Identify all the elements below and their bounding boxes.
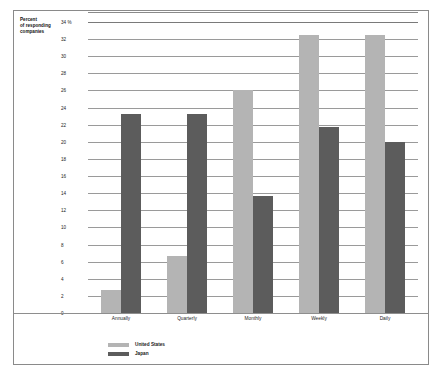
bar-quarterly-japan[interactable] [187, 114, 207, 313]
y-tick-label-14: 14 [61, 191, 83, 196]
gridline-top-cap [88, 12, 418, 13]
plot-area: 34 %32302826242220181614121086420 [88, 22, 418, 313]
y-tick-label-18: 18 [61, 156, 83, 161]
bar-weekly-japan[interactable] [319, 127, 339, 313]
x-tick-label-daily: Daily [352, 316, 418, 328]
legend-label-us: United States [135, 342, 165, 347]
bar-group-weekly [286, 22, 352, 313]
y-tick-label-32: 32 [61, 37, 83, 42]
baseline-extension [14, 313, 428, 314]
bar-monthly-japan[interactable] [253, 196, 273, 313]
bar-group-daily [352, 22, 418, 313]
y-tick-label-34: 34 % [61, 20, 83, 25]
y-tick-label-24: 24 [61, 105, 83, 110]
y-tick-label-12: 12 [61, 208, 83, 213]
x-axis-labels: AnnuallyQuarterlyMonthlyWeeklyDaily [88, 316, 418, 328]
y-tick-label-4: 4 [61, 276, 83, 281]
x-tick-label-monthly: Monthly [220, 316, 286, 328]
bar-daily-united-states[interactable] [365, 35, 385, 313]
bar-group-monthly [220, 22, 286, 313]
axis-title-text-1: Percent [20, 17, 37, 22]
y-tick-label-28: 28 [61, 71, 83, 76]
y-tick-label-26: 26 [61, 88, 83, 93]
x-tick-label-quarterly: Quarterly [154, 316, 220, 328]
bar-monthly-united-states[interactable] [233, 90, 253, 313]
legend-swatch-jp [108, 352, 129, 356]
axis-title-text-3: companies [20, 29, 44, 34]
bar-annually-united-states[interactable] [101, 290, 121, 313]
y-tick-label-20: 20 [61, 139, 83, 144]
y-tick-label-22: 22 [61, 122, 83, 127]
bar-quarterly-united-states[interactable] [167, 256, 187, 313]
y-tick-label-16: 16 [61, 174, 83, 179]
y-tick-label-6: 6 [61, 259, 83, 264]
x-tick-label-annually: Annually [88, 316, 154, 328]
bar-daily-japan[interactable] [385, 142, 405, 313]
y-tick-label-30: 30 [61, 54, 83, 59]
legend-item-jp[interactable]: Japan [108, 349, 165, 358]
bar-groups [88, 22, 418, 313]
chart-legend: United StatesJapan [108, 340, 165, 358]
chart-figure: Percent of responding companies 34 %3230… [0, 0, 442, 375]
y-tick-label-10: 10 [61, 225, 83, 230]
bar-group-annually [88, 22, 154, 313]
legend-swatch-us [108, 343, 129, 347]
bar-weekly-united-states[interactable] [299, 35, 319, 313]
y-tick-label-8: 8 [61, 242, 83, 247]
bar-group-quarterly [154, 22, 220, 313]
x-tick-label-weekly: Weekly [286, 316, 352, 328]
axis-title-text-2: of responding [20, 23, 51, 28]
legend-label-jp: Japan [135, 351, 149, 356]
y-axis-title-line-3: companies [20, 29, 75, 35]
legend-item-us[interactable]: United States [108, 340, 165, 349]
bar-annually-japan[interactable] [121, 114, 141, 313]
y-tick-label-2: 2 [61, 293, 83, 298]
